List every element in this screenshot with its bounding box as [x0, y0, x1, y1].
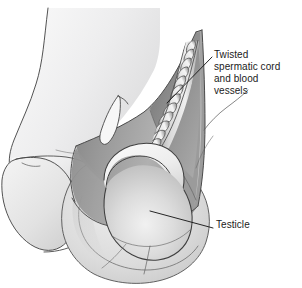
anatomy-illustration: [0, 0, 302, 288]
illustration-figure: Twisted spermatic cord and blood vessels…: [0, 0, 302, 288]
label-testicle: Testicle: [216, 219, 300, 231]
label-twisted-spermatic-cord: Twisted spermatic cord and blood vessels: [214, 49, 302, 97]
